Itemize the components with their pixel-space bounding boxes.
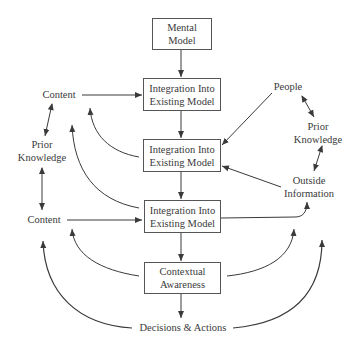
curve-contextual-to-content [72,229,139,276]
curve-contextual-to-right [227,229,294,276]
curve-decisions-to-content [43,241,132,328]
mental-model-line1: Mental [167,21,197,34]
integration-3-line1: Integration Into [150,204,216,217]
outside-line2: Information [280,187,338,200]
arrow-outside-to-int2 [222,166,281,187]
integration-box-3: Integration Into Existing Model [144,200,221,233]
curve-int3-to-outside [221,202,307,218]
prior-knowledge-left-label: Prior Knowledge [14,138,70,164]
integration-2-line2: Existing Model [149,156,214,169]
integration-2-line1: Integration Into [149,143,215,156]
mental-model-line2: Model [168,34,195,47]
curve-int2-to-content [90,108,139,157]
outside-information-label: Outside Information [280,174,338,200]
arrow-content-prior-left [45,104,52,136]
integration-box-1: Integration Into Existing Model [143,78,221,111]
content-bottom-label: Content [23,213,65,226]
contextual-line2: Awareness [160,278,205,291]
prior-right-line2: Knowledge [290,133,346,146]
mental-model-box: Mental Model [152,18,212,50]
prior-right-line1: Prior [290,120,346,133]
prior-knowledge-right-label: Prior Knowledge [290,120,346,146]
content-top-label: Content [38,88,80,101]
prior-left-line2: Knowledge [14,151,70,164]
arrow-people-to-int2 [222,93,272,145]
contextual-line1: Contextual [159,265,205,278]
people-label: People [268,80,308,93]
curve-int3-to-left [72,125,139,208]
curve-decisions-to-right [233,240,322,328]
integration-box-2: Integration Into Existing Model [143,139,221,172]
outside-line1: Outside [280,174,338,187]
prior-left-line1: Prior [14,138,70,151]
integration-1-line1: Integration Into [149,82,215,95]
integration-3-line2: Existing Model [150,217,215,230]
integration-1-line2: Existing Model [149,95,214,108]
contextual-awareness-box: Contextual Awareness [144,262,221,294]
arrow-people-prior-right [302,96,314,117]
decisions-actions-label: Decisions & Actions [134,321,232,334]
arrow-prior-outside-right [314,146,322,171]
